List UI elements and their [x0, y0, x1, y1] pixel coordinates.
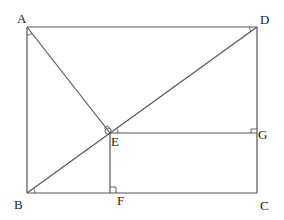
label-d: D [260, 12, 269, 27]
label-g: G [258, 127, 267, 142]
label-f: F [117, 193, 124, 208]
right-angle-mark-f [110, 187, 116, 193]
angle-mark-d [249, 27, 251, 32]
angle-mark-e [117, 128, 119, 133]
label-e: E [111, 134, 119, 149]
geometry-diagram: A D B F C E G [0, 0, 284, 220]
angle-mark-b [34, 189, 36, 194]
label-a: A [17, 11, 27, 26]
label-c: C [260, 198, 269, 213]
segment-bd [27, 27, 257, 193]
segment-ae [27, 27, 110, 133]
label-b: B [14, 197, 23, 212]
angle-mark-a [27, 34, 32, 36]
